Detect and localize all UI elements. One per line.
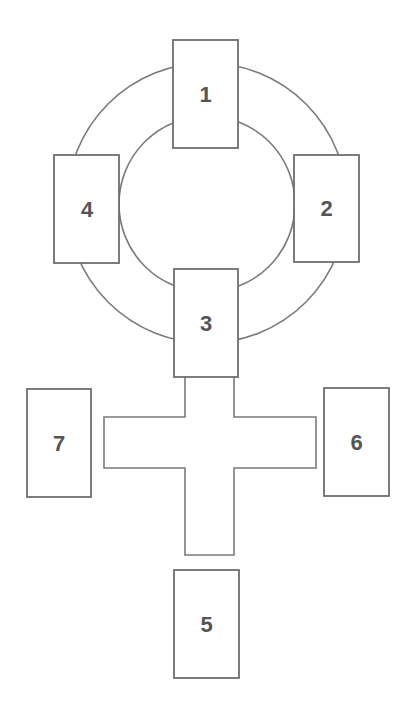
card-2: 2 — [294, 155, 359, 262]
spread-diagram: 1 2 4 3 7 6 5 — [0, 0, 414, 718]
card-7: 7 — [27, 389, 91, 497]
card-4: 4 — [54, 155, 119, 263]
card-5: 5 — [174, 570, 239, 678]
card-3: 3 — [174, 269, 238, 377]
card-2-label: 2 — [320, 196, 332, 221]
card-5-label: 5 — [200, 612, 212, 637]
card-4-label: 4 — [81, 197, 94, 222]
card-7-label: 7 — [53, 431, 65, 456]
card-3-label: 3 — [200, 311, 212, 336]
cross-shape — [104, 377, 316, 555]
card-6: 6 — [324, 388, 389, 496]
card-6-label: 6 — [350, 430, 362, 455]
card-1: 1 — [173, 40, 238, 148]
card-1-label: 1 — [199, 82, 211, 107]
